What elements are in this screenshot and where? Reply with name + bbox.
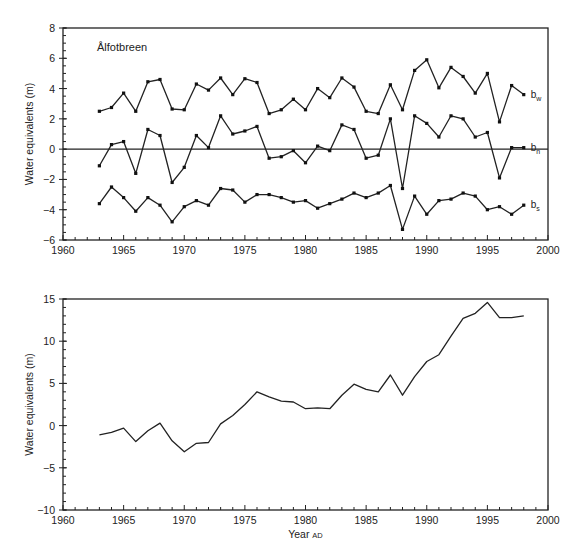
x-tick-label: 1965 [112, 514, 136, 526]
data-point-marker [316, 87, 319, 90]
series-line-bw [99, 60, 523, 122]
data-point-marker [486, 208, 489, 211]
data-point-marker [134, 172, 137, 175]
data-point-marker [195, 199, 198, 202]
data-point-marker [425, 58, 428, 61]
x-tick-label: 1970 [173, 514, 197, 526]
data-point-marker [413, 194, 416, 197]
data-point-marker [316, 145, 319, 148]
data-point-marker [425, 213, 428, 216]
x-tick-label: 1990 [415, 514, 439, 526]
data-point-marker [352, 191, 355, 194]
x-tick-label: 1995 [476, 514, 500, 526]
series-line-bn [99, 116, 523, 189]
data-point-marker [280, 155, 283, 158]
data-point-marker [207, 146, 210, 149]
data-point-marker [304, 161, 307, 164]
data-point-marker [158, 78, 161, 81]
data-point-marker [462, 191, 465, 194]
y-tick-label: 8 [49, 22, 55, 34]
y-tick-label: 0 [49, 143, 55, 155]
plot-frame [63, 299, 548, 510]
data-point-marker [352, 85, 355, 88]
data-point-marker [522, 204, 525, 207]
x-tick-label: 2000 [536, 244, 560, 256]
data-point-marker [146, 128, 149, 131]
data-point-marker [207, 204, 210, 207]
data-point-marker [377, 112, 380, 115]
series-line-cumulative-net-balance [99, 302, 523, 451]
plot-frame [63, 28, 548, 240]
y-tick-label: 4 [49, 83, 55, 95]
data-point-marker [195, 82, 198, 85]
data-point-marker [365, 157, 368, 160]
x-tick-label: 1980 [294, 244, 318, 256]
data-point-marker [401, 228, 404, 231]
data-point-marker [292, 149, 295, 152]
data-point-marker [134, 210, 137, 213]
data-point-marker [219, 114, 222, 117]
data-point-marker [268, 112, 271, 115]
x-tick-label: 1985 [354, 514, 378, 526]
data-point-marker [255, 193, 258, 196]
data-point-marker [243, 77, 246, 80]
data-point-marker [449, 198, 452, 201]
data-point-marker [498, 176, 501, 179]
data-point-marker [171, 107, 174, 110]
data-point-marker [389, 117, 392, 120]
data-point-marker [486, 131, 489, 134]
data-point-marker [243, 201, 246, 204]
series-label-bn: bn [531, 142, 541, 155]
data-point-marker [474, 135, 477, 138]
data-point-marker [158, 204, 161, 207]
y-tick-label: 15 [43, 293, 55, 305]
x-tick-label: 2000 [536, 514, 560, 526]
data-point-marker [243, 129, 246, 132]
data-point-marker [304, 108, 307, 111]
data-point-marker [122, 140, 125, 143]
data-point-marker [292, 98, 295, 101]
data-point-marker [377, 154, 380, 157]
x-tick-label: 1985 [354, 244, 378, 256]
data-point-marker [340, 198, 343, 201]
data-point-marker [413, 69, 416, 72]
y-tick-label: −2 [43, 173, 55, 185]
data-point-marker [255, 81, 258, 84]
y-tick-label: −10 [37, 504, 55, 516]
data-point-marker [522, 93, 525, 96]
x-tick-label: 1975 [233, 244, 257, 256]
data-point-marker [292, 201, 295, 204]
data-point-marker [110, 106, 113, 109]
data-point-marker [122, 92, 125, 95]
data-point-marker [401, 187, 404, 190]
chart-title: Ålfotbreen [97, 41, 147, 53]
data-point-marker [425, 122, 428, 125]
data-point-marker [134, 110, 137, 113]
y-tick-label: −6 [43, 234, 55, 246]
data-point-marker [268, 193, 271, 196]
data-point-marker [231, 93, 234, 96]
data-point-marker [498, 205, 501, 208]
data-point-marker [219, 187, 222, 190]
data-point-marker [449, 114, 452, 117]
series-label-bw: bw [531, 89, 543, 102]
x-axis-label: Year AD [288, 528, 323, 540]
series-label-bs: bs [531, 199, 541, 212]
data-point-marker [498, 120, 501, 123]
x-tick-label: 1970 [173, 244, 197, 256]
y-tick-label: −5 [43, 462, 55, 474]
data-point-marker [316, 207, 319, 210]
data-point-marker [365, 110, 368, 113]
data-point-marker [146, 80, 149, 83]
data-point-marker [522, 146, 525, 149]
data-point-marker [219, 76, 222, 79]
data-point-marker [231, 188, 234, 191]
data-point-marker [146, 196, 149, 199]
data-point-marker [231, 132, 234, 135]
data-point-marker [183, 166, 186, 169]
data-point-marker [110, 143, 113, 146]
data-point-marker [352, 128, 355, 131]
data-point-marker [183, 205, 186, 208]
x-tick-label: 1980 [294, 514, 318, 526]
data-point-marker [437, 199, 440, 202]
